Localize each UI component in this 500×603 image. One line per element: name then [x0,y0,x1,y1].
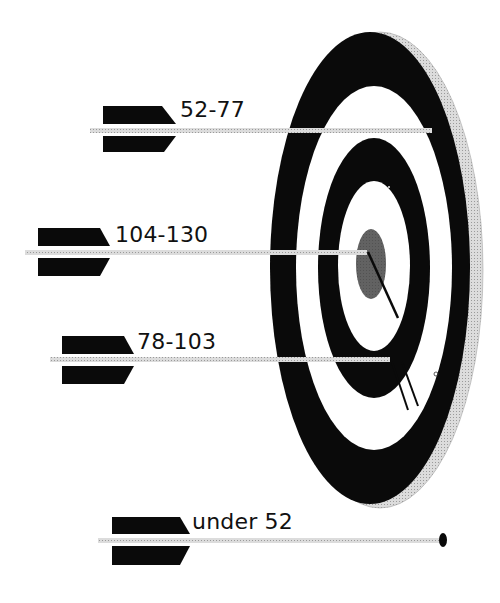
fletching-bottom [103,136,176,152]
arrow-label-under-52: under 52 [192,509,293,534]
fletching-top [62,336,134,354]
fletching-top [112,517,190,534]
fletching-bottom [112,546,190,565]
arrow-label-104-130: 104-130 [115,222,208,247]
fletching-top [38,228,110,246]
fletching-bottom [62,366,134,384]
arrow-shaft [50,357,390,362]
arrow-label-52-77: 52-77 [180,97,245,122]
fletching-top [103,106,176,124]
fletching-bottom [38,258,110,276]
arrow-shaft [25,250,367,255]
arrow-tip [439,533,447,547]
arrow-shaft [98,538,440,543]
arrow-shaft [90,128,432,133]
arrow-label-78-103: 78-103 [137,329,216,354]
